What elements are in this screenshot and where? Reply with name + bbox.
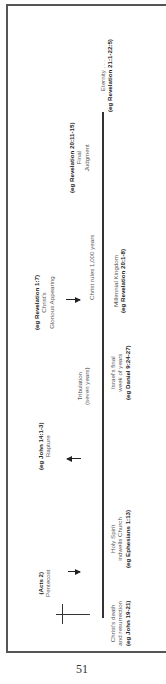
era-millennial-kingdom: Millennial Kingdom (eg Revelation 20:1-8… (112, 249, 127, 313)
event-ref: (eg Revelation 20:11-15) (68, 123, 75, 194)
era-death-resurrection: Christ's death and resurrection (eg John… (109, 601, 131, 646)
event-ref: (Acts 2) (37, 569, 44, 597)
era-line: week of years (116, 345, 123, 400)
event-name-line: Christ's (40, 275, 47, 330)
period-line: (seven years) (83, 368, 90, 405)
event-name: Pentecost (44, 569, 51, 597)
event-name: Rapture (44, 423, 51, 470)
page-number: 51 (76, 662, 88, 677)
timeline-line (102, 112, 104, 618)
era-eternity: Eternity . . . (eg Revelation 21:1-22:5) (99, 39, 114, 112)
era-line: Millennial Kingdom (112, 249, 119, 313)
event-name-line: Glorious Appearing (48, 275, 55, 330)
event-pentecost: (Acts 2) Pentecost (37, 569, 52, 597)
era-ref: (eg Revelation 21:1-22:5) (106, 39, 113, 112)
era-line: Israel's final (109, 345, 116, 400)
event-name-line: Judgment (83, 123, 90, 194)
era-line: indwells Church (116, 510, 123, 568)
event-glorious-appearing: (eg Revelation 1:7) Christ's Glorious Ap… (33, 275, 55, 330)
event-final-judgment: (eg Revelation 20:11-15) Final Judgment (68, 123, 90, 194)
era-line: Eternity . . . (99, 39, 106, 112)
period-tribulation: Tribulation (seven years) (76, 368, 91, 405)
event-ref: (eg Revelation 1:7) (33, 275, 40, 330)
era-ref: (eg Revelation 20:1-8) (119, 249, 126, 313)
cross-icon-vertical (62, 604, 63, 624)
era-ref: (eg Ephesians 1:13) (124, 510, 131, 568)
era-line: Christ's death (109, 601, 116, 646)
event-ref: (eg John 14:1-3) (37, 423, 44, 470)
era-line: Holy Spirit (109, 510, 116, 568)
event-rapture: (eg John 14:1-3) Rapture (37, 423, 52, 470)
period-line: Christ rules 1,000 years (88, 235, 95, 300)
diagram-frame (6, 4, 166, 653)
era-line: and resurrection (116, 601, 123, 646)
era-holy-spirit: Holy Spirit indwells Church (eg Ephesian… (109, 510, 131, 568)
arrow-right-icon (68, 571, 80, 572)
event-name-line: Final (75, 123, 82, 194)
arrow-right-icon (66, 299, 80, 300)
period-christ-rules: Christ rules 1,000 years (88, 235, 95, 300)
period-line: Tribulation (76, 368, 83, 405)
era-israel-final-week: Israel's final week of years (eg Daniel … (109, 345, 131, 400)
arrow-left-icon (67, 458, 81, 459)
era-ref: (eg Daniel 9:24-27) (124, 345, 131, 400)
era-ref: (eg John 19-21) (124, 601, 131, 646)
